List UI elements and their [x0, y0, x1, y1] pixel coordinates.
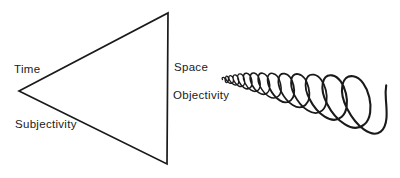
figure-canvas: Time Subjectivity Space Objectivity	[0, 0, 400, 178]
label-subjectivity: Subjectivity	[15, 118, 77, 130]
label-space: Space	[174, 61, 208, 73]
label-time: Time	[14, 63, 40, 75]
label-objectivity: Objectivity	[173, 89, 229, 101]
